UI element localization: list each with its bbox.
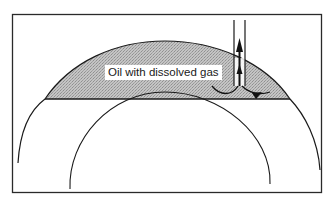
reservoir-diagram: Oil with dissolved gas xyxy=(0,0,334,203)
oil-zone-label: Oil with dissolved gas xyxy=(105,65,222,80)
diagram-canvas xyxy=(0,0,334,203)
inner-arc xyxy=(70,92,270,189)
